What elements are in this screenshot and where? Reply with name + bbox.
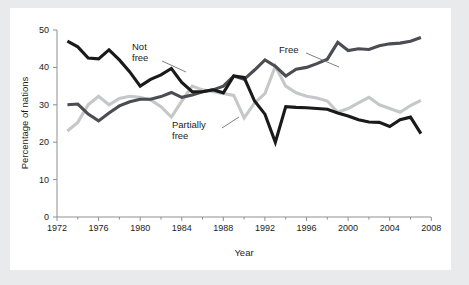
x-tick-label-1988: 1988 <box>213 223 233 233</box>
x-axis-title: Year <box>234 247 253 258</box>
x-tick-label-1996: 1996 <box>296 223 316 233</box>
x-tick-label-1972: 1972 <box>47 223 67 233</box>
series-line-not-free <box>67 41 421 142</box>
y-tick-label-10: 10 <box>39 175 49 185</box>
annotation-free-line1: Free <box>279 44 299 55</box>
series-group <box>67 37 421 142</box>
x-axis: 1972 1976 1980 1984 1988 1992 1996 2000 … <box>47 217 441 233</box>
y-tick-label-30: 30 <box>39 100 49 110</box>
y-tick-label-50: 50 <box>39 25 49 35</box>
annotation-partially-free: Partially free <box>172 119 206 141</box>
x-tick-label-1980: 1980 <box>130 223 150 233</box>
figure-root: 0 10 20 30 40 50 <box>0 0 469 285</box>
x-tick-label-2008: 2008 <box>421 223 441 233</box>
annotation-free: Free <box>279 44 299 55</box>
y-tick-label-0: 0 <box>44 212 49 222</box>
annotation-not-free-line1: Not <box>132 41 147 52</box>
figure-card: 0 10 20 30 40 50 <box>10 8 451 270</box>
annotation-not-free: Not free <box>132 41 148 63</box>
x-tick-label-2004: 2004 <box>380 223 400 233</box>
x-tick-label-1984: 1984 <box>172 223 192 233</box>
y-tick-label-40: 40 <box>39 62 49 72</box>
y-axis-title: Percentage of nations <box>19 77 30 170</box>
x-tick-label-1976: 1976 <box>89 223 109 233</box>
y-axis: 0 10 20 30 40 50 <box>39 25 57 222</box>
x-tick-label-2000: 2000 <box>338 223 358 233</box>
annotation-partially-free-line1: Partially <box>172 119 206 130</box>
x-tick-label-1992: 1992 <box>255 223 275 233</box>
y-tick-label-20: 20 <box>39 137 49 147</box>
annotation-partially-free-line2: free <box>172 130 188 141</box>
annotation-not-free-line2: free <box>132 52 148 63</box>
leader-line-partially-free <box>222 117 239 128</box>
line-chart: 0 10 20 30 40 50 <box>10 8 451 270</box>
